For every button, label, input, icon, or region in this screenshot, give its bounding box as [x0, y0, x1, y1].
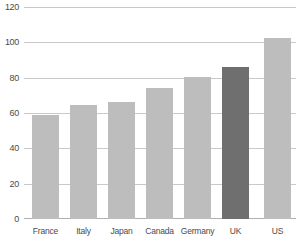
y-tick-label-100: 100 — [0, 38, 19, 47]
y-tick-label-80: 80 — [0, 74, 19, 83]
bar-japan[interactable] — [108, 102, 135, 219]
bar-france[interactable] — [32, 115, 59, 219]
x-axis: France Italy Japan Canada Germany UK US — [24, 226, 296, 242]
bar-uk[interactable] — [222, 67, 249, 219]
y-tick-label-0: 0 — [0, 215, 19, 224]
y-tick-label-120: 120 — [0, 3, 19, 12]
x-tick-label-us: US — [252, 226, 301, 236]
bar-germany[interactable] — [184, 77, 211, 219]
y-tick-label-20: 20 — [0, 180, 19, 189]
bar-us[interactable] — [264, 38, 291, 219]
bars-layer — [24, 7, 296, 219]
bar-chart: 120 100 80 60 40 20 0 France Italy Japan… — [0, 0, 301, 248]
bar-canada[interactable] — [146, 88, 173, 219]
plot-area — [24, 7, 296, 219]
y-tick-label-40: 40 — [0, 144, 19, 153]
y-tick-label-60: 60 — [0, 109, 19, 118]
bar-italy[interactable] — [70, 105, 97, 219]
